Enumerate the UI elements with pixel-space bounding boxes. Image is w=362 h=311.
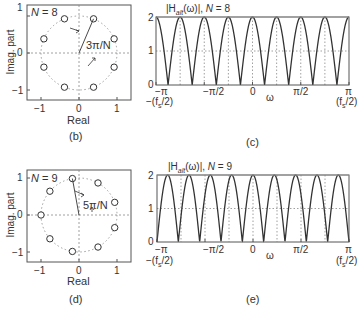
arrow-head-icon [76, 30, 79, 33]
ylabel-d: Imag. part [6, 184, 16, 246]
panel-label-b: (b) [69, 131, 82, 142]
n-label-d: N = 9 [31, 173, 58, 184]
xtick-pi2-e: π/2 [293, 245, 308, 255]
panel-label-e: (e) [246, 294, 259, 305]
xtick-neg-fs-c: −(fs/2) [146, 97, 173, 109]
angle-annotation-d: 5π/N [83, 200, 108, 211]
ytick-1-b: 1 [17, 3, 23, 13]
ytick-0-e: 0 [148, 237, 154, 247]
ytick-1-e: 1 [148, 204, 154, 214]
ytick-1-c: 1 [148, 46, 154, 56]
zero-marker [47, 236, 53, 242]
panel-label-d: (d) [69, 294, 82, 305]
zero-marker [69, 248, 75, 254]
xlabel-d: Real [67, 276, 90, 287]
xtick-pos-fs-c: (fs/2) [336, 97, 357, 109]
zero-marker [111, 36, 117, 42]
angle-ray-d [72, 179, 79, 215]
xtick-0-e: 0 [250, 245, 256, 255]
arrow-icon [88, 58, 95, 66]
zero-marker [112, 224, 118, 230]
xtick-neg-pi2-c: −π/2 [203, 87, 224, 97]
zero-marker [47, 188, 53, 194]
ytick-1-d: 1 [17, 173, 23, 183]
xtick-1-d: 1 [114, 266, 120, 276]
figure-canvas [0, 0, 362, 311]
zero-marker [41, 64, 47, 70]
ytick-neg1-b: −1 [12, 86, 23, 96]
zero-marker [41, 36, 47, 42]
arrow-head-icon [81, 193, 84, 197]
xlabel-e: ω [266, 251, 274, 261]
n-symbol: N [31, 6, 39, 18]
xtick-pi-e: π [345, 245, 352, 255]
zero-marker [90, 16, 96, 22]
xtick-0-c: 0 [250, 87, 256, 97]
ytick-2-e: 2 [148, 171, 154, 181]
xtick-neg-pi2-e: −π/2 [203, 245, 224, 255]
zero-marker [61, 84, 67, 90]
angle-annotation-b: 3π/N [86, 40, 111, 51]
xtick-pos-fs-e: (fs/2) [336, 256, 357, 268]
zero-marker [61, 16, 67, 22]
zero-marker [95, 180, 101, 186]
zero-marker [95, 244, 101, 250]
n-value: = 9 [39, 172, 58, 184]
title-e: |Halt(ω)|, N = 9 [168, 162, 232, 174]
ytick-0-c: 0 [148, 80, 154, 90]
ylabel-b: Imag. part [6, 21, 16, 83]
xtick-neg1-d: −1 [34, 266, 45, 276]
ytick-0-b: 0 [17, 48, 23, 58]
title-c: |Halt(ω)|, N = 8 [166, 4, 230, 16]
zero-marker [111, 64, 117, 70]
ytick-2-c: 2 [148, 13, 154, 23]
xlabel-c: ω [266, 93, 274, 103]
xtick-neg-pi-e: −π [155, 245, 168, 255]
zero-marker [90, 84, 96, 90]
xtick-pi2-c: π/2 [293, 87, 308, 97]
n-label-b: N = 8 [31, 7, 58, 18]
n-value: = 8 [39, 6, 58, 18]
xtick-1-b: 1 [114, 104, 120, 114]
xtick-neg-fs-e: −(fs/2) [146, 256, 173, 268]
xtick-0-b: 0 [76, 104, 82, 114]
zero-marker [112, 199, 118, 205]
ytick-0-d: 0 [17, 210, 23, 220]
xtick-neg1-b: −1 [34, 104, 45, 114]
n-symbol: N [31, 172, 39, 184]
panel-label-c: (c) [246, 137, 259, 148]
zero-marker [38, 212, 44, 218]
ytick-neg1-d: −1 [12, 248, 23, 258]
xlabel-b: Real [67, 115, 90, 126]
